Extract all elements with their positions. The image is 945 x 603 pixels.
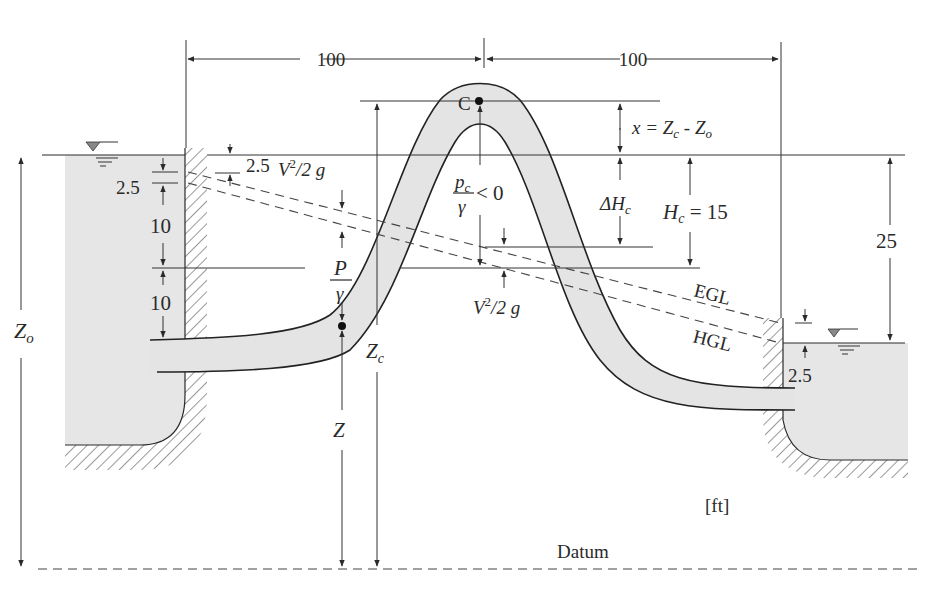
crest-velocity-head-label: V2/2 g — [473, 294, 520, 318]
crest-pressure-denominator: γ — [458, 196, 466, 217]
upper-ten-label: 10 — [150, 214, 171, 238]
entrance-loss-label: 2.5 — [116, 177, 140, 198]
elevation-diff-label: 25 — [876, 229, 897, 253]
crest-height-equation: x = Zc - Zo — [631, 117, 713, 141]
datum-label: Datum — [557, 541, 609, 562]
crest-pressure-condition: < 0 — [476, 181, 504, 205]
z-label: Z — [333, 418, 345, 442]
crest-point-label: C — [458, 93, 471, 114]
span-left-label: 100 — [317, 49, 346, 70]
crest-pressure-numerator: pc — [453, 171, 471, 195]
zc-label: Zc — [366, 339, 385, 366]
left-pressure-denominator: γ — [336, 283, 344, 304]
left-velocity-head-label: V2/2 g — [278, 156, 325, 180]
crest-head-label: Hc = 15 — [662, 200, 728, 226]
exit-loss-label: 2.5 — [788, 365, 812, 386]
hgl-label: HGL — [691, 326, 734, 356]
horizontal-dimensions: 100 100 — [186, 38, 781, 318]
span-right-label: 100 — [619, 49, 648, 70]
wall-loss-label: 2.5 — [246, 155, 270, 176]
zo-label: Zo — [14, 318, 34, 346]
delta-head-label: ΔHc — [599, 193, 631, 217]
left-pressure-numerator: P — [333, 256, 347, 280]
crest-point-marker — [475, 97, 483, 105]
left-point-marker — [338, 322, 346, 330]
egl-label: EGL — [692, 280, 733, 309]
lower-ten-label: 10 — [150, 291, 171, 315]
siphon-diagram: 100 100 C pc γ < 0 x = Zc - Zo ΔHc Hc = … — [0, 0, 945, 603]
units-label: [ft] — [705, 495, 729, 516]
